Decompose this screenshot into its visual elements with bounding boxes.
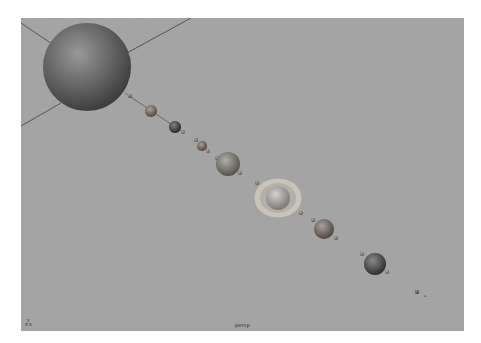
planet-2-shading — [145, 105, 157, 117]
pluto-moon-shading — [424, 295, 426, 297]
moon-7-shading — [334, 236, 338, 240]
planet-6a-shading — [255, 181, 259, 185]
moon-4-shading — [206, 149, 210, 153]
planet-1-shading — [128, 94, 132, 98]
planet-4-shading — [197, 141, 207, 151]
planet-7-shading — [314, 219, 334, 239]
sun-shading — [43, 23, 131, 111]
moon-3-shading — [181, 130, 185, 134]
planet-5-shading — [216, 152, 240, 176]
maya-perspective-viewport[interactable]: Y Z-X persp — [21, 18, 464, 331]
moon-8-shading — [385, 270, 389, 274]
saturn-shading — [266, 186, 290, 210]
planet-7a-shading — [311, 218, 315, 222]
planet-4a-shading — [194, 138, 198, 142]
camera-label: persp — [21, 322, 464, 328]
planet-8a-shading — [360, 252, 364, 256]
moon-5-shading — [238, 171, 242, 175]
solar-system-scene[interactable] — [21, 18, 464, 331]
pluto-shading — [415, 290, 419, 294]
moon-6-shading — [299, 211, 303, 215]
planet-8-shading — [364, 253, 386, 275]
planet-3-shading — [169, 121, 181, 133]
